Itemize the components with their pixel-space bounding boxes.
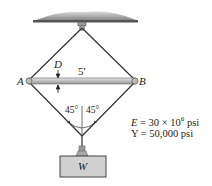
angle-arc-right: [82, 122, 96, 128]
yield-text: Y = 50,000 psi: [131, 129, 193, 140]
modulus-text: EE = 30 × 10 = 30 × 106 psi: [131, 116, 199, 128]
label-bar-length: 5': [78, 66, 85, 77]
label-point-a: A: [17, 76, 24, 87]
truss-diagram: [0, 0, 212, 186]
label-angle-left: 45°: [65, 106, 78, 116]
label-dimension-d: D: [54, 59, 62, 70]
label-angle-right: 45°: [86, 106, 99, 116]
label-point-b: B: [139, 76, 146, 87]
angle-arc-left: [68, 122, 82, 128]
link-top-right: [82, 28, 136, 81]
ceiling-support: [33, 11, 138, 30]
link-top-left: [28, 28, 82, 81]
bar-ab: [28, 78, 136, 84]
label-weight: W: [78, 161, 87, 172]
pin-b: [132, 78, 138, 84]
pin-a: [26, 78, 32, 84]
hook: [76, 136, 88, 156]
